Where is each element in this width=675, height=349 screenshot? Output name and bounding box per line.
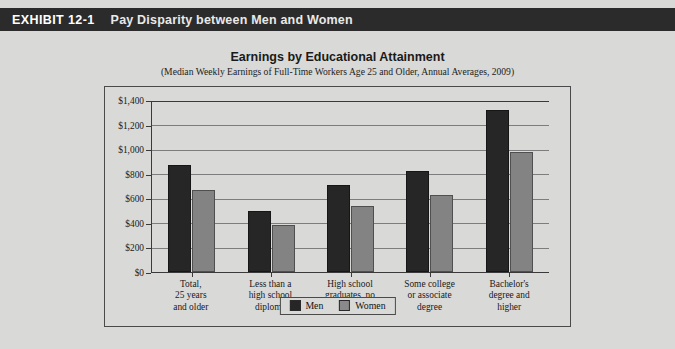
bar-groups [152, 101, 549, 272]
legend-swatch-women [339, 300, 350, 311]
bar-men [486, 110, 509, 272]
x-axis-tick-mark [351, 272, 352, 277]
legend-swatch-men [289, 300, 300, 311]
x-axis-category-label: Total,25 yearsand older [151, 279, 231, 313]
chart-subtitle: (Median Weekly Earnings of Full-Time Wor… [0, 66, 675, 77]
y-axis-tick-label: $0 [135, 268, 144, 278]
chart-legend: Men Women [279, 297, 395, 315]
y-axis-tick-label: $400 [125, 219, 144, 229]
y-axis-tick-label: $1,200 [118, 121, 144, 131]
bar-women [272, 225, 295, 272]
legend-label-women: Women [355, 300, 385, 311]
bar-men [168, 165, 191, 272]
bar-group [470, 101, 549, 272]
x-axis-tick-mark [271, 272, 272, 277]
y-axis-tick-label: $1,000 [118, 145, 144, 155]
bar-group [311, 101, 390, 272]
y-axis-tick-mark [146, 150, 151, 151]
y-axis-tick-mark [146, 199, 151, 200]
plot-wrapper: $0$200$400$600$800$1,000$1,200$1,400 [151, 101, 549, 273]
bar-men [248, 211, 271, 272]
y-axis-tick-mark [146, 248, 151, 249]
bar-women [510, 152, 533, 272]
x-axis-category-label: Bachelor'sdegree andhigher [469, 279, 549, 313]
exhibit-number: EXHIBIT 12-1 [12, 13, 95, 27]
bar-women [192, 190, 215, 272]
bar-women [351, 206, 374, 272]
y-axis-tick-mark [146, 126, 151, 127]
y-axis-tick-label: $1,400 [118, 96, 144, 106]
bar-men [327, 185, 350, 272]
legend-label-men: Men [305, 300, 323, 311]
bar-group [231, 101, 310, 272]
bar-men [406, 171, 429, 273]
legend-item-women: Women [339, 300, 385, 311]
y-axis-tick-mark [146, 101, 151, 102]
exhibit-title: Pay Disparity between Men and Women [111, 13, 353, 27]
chart-frame: $0$200$400$600$800$1,000$1,200$1,400 Tot… [104, 86, 571, 327]
x-axis-tick-mark [509, 272, 510, 277]
x-axis-category-label: Some collegeor associatedegree [390, 279, 470, 313]
y-axis-tick-label: $800 [125, 170, 144, 180]
y-axis-tick-mark [146, 224, 151, 225]
chart-title: Earnings by Educational Attainment [0, 50, 675, 64]
y-axis-tick-label: $200 [125, 243, 144, 253]
y-axis-tick-label: $600 [125, 194, 144, 204]
bar-group [390, 101, 469, 272]
exhibit-header-bar: EXHIBIT 12-1 Pay Disparity between Men a… [0, 8, 675, 31]
bar-women [430, 195, 453, 272]
plot-area [151, 101, 549, 273]
y-axis-tick-mark [146, 273, 151, 274]
x-axis-tick-mark [430, 272, 431, 277]
x-axis-tick-mark [192, 272, 193, 277]
exhibit-figure: EXHIBIT 12-1 Pay Disparity between Men a… [0, 0, 675, 349]
bar-group [152, 101, 231, 272]
legend-item-men: Men [289, 300, 323, 311]
y-axis-tick-mark [146, 175, 151, 176]
